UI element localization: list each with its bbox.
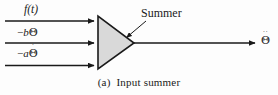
figure-caption: (a)Input summer — [0, 76, 278, 88]
input-label-velocity-feedback: −a·Θ — [17, 48, 38, 59]
overdot-double-icon: ·· — [263, 29, 269, 36]
overdot-single-icon: · — [32, 42, 35, 49]
caption-text: Input summer — [117, 76, 181, 88]
theta-symbol: Θ — [29, 26, 38, 39]
caption-index: (a) — [98, 76, 111, 88]
summer-block-triangle — [98, 16, 134, 69]
input-label-position-feedback: −bΘ — [17, 27, 38, 38]
theta-first-derivative: ·Θ — [29, 48, 38, 59]
summer-leader-line — [127, 21, 147, 38]
figure-input-summer: f(t) −bΘ −a·Θ ··Θ Summer (a)Input summer — [0, 0, 278, 95]
input-label-forcing-function: f(t) — [24, 4, 38, 16]
summer-annotation-label: Summer — [141, 7, 182, 19]
output-label-acceleration: ··Θ — [261, 35, 270, 46]
input-label-forcing-function-text: f(t) — [24, 3, 38, 15]
theta-second-derivative: ··Θ — [261, 35, 270, 46]
